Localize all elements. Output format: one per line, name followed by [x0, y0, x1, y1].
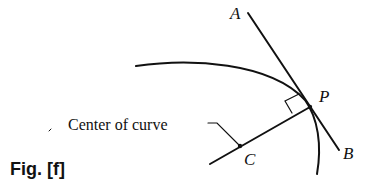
radius-line-cp — [210, 107, 310, 164]
curve-tangent-diagram: A P B C Center of curve Fig. [f] — [0, 0, 375, 189]
label-b: B — [343, 144, 354, 163]
label-c: C — [244, 150, 256, 169]
stray-mark — [49, 129, 51, 131]
label-a: A — [229, 4, 241, 23]
tangent-line-ab — [248, 13, 339, 150]
figure-caption: Fig. [f] — [10, 159, 65, 179]
leader-line — [208, 123, 240, 146]
label-p: P — [318, 87, 329, 106]
point-p — [308, 105, 312, 109]
right-angle-marker — [285, 94, 299, 113]
label-center-of-curve: Center of curve — [68, 116, 168, 133]
